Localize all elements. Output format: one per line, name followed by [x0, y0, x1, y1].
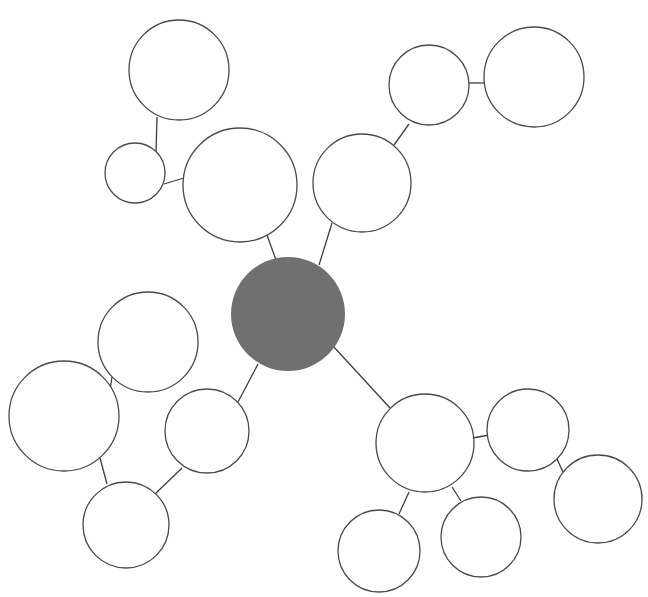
connector-center-I [238, 364, 258, 402]
bubble-node-O [441, 497, 521, 577]
bubble-node-M [554, 455, 642, 543]
connector-F-D [394, 124, 409, 145]
bubble-node-B [105, 143, 165, 203]
bubble-node-I [165, 389, 249, 473]
connector-C-center [267, 235, 276, 260]
center-layer [231, 257, 345, 371]
connector-B-C [164, 178, 184, 184]
connector-A-B [156, 117, 157, 152]
connector-K-L [473, 435, 489, 438]
connector-I-J [155, 468, 182, 494]
bubble-node-G [98, 292, 198, 392]
bubble-node-H [9, 361, 119, 471]
bubble-node-L [487, 389, 569, 471]
connector-H-J [100, 458, 107, 484]
connector-L-M [557, 459, 563, 472]
bubble-node-E [484, 27, 584, 127]
bubble-node-N [338, 510, 420, 592]
bubble-node-F [313, 134, 411, 232]
connector-center-K [333, 346, 390, 408]
center-node [231, 257, 345, 371]
bubble-node-A [129, 20, 229, 120]
bubble-node-D [389, 45, 469, 125]
diagram-svg [0, 0, 648, 597]
connector-K-O [452, 487, 461, 501]
connector-F-center [319, 223, 332, 265]
bubble-node-C [183, 128, 297, 242]
bubble-map-diagram [0, 0, 648, 597]
bubble-node-J [83, 482, 169, 568]
connector-K-N [399, 492, 409, 514]
bubble-node-K [376, 394, 474, 492]
